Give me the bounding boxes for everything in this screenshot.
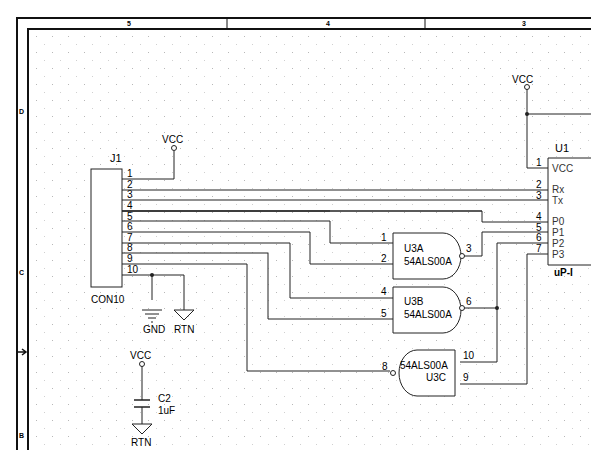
svg-text:uP-I: uP-I	[554, 267, 573, 278]
svg-text:8: 8	[382, 361, 388, 372]
zone-marker-arrow-icon	[18, 349, 26, 355]
svg-text:54ALS00A: 54ALS00A	[400, 360, 448, 371]
connector-body[interactable]	[91, 169, 122, 287]
svg-text:1uF: 1uF	[158, 405, 175, 416]
svg-text:4: 4	[536, 211, 542, 222]
svg-text:P3: P3	[552, 249, 565, 260]
svg-text:VCC: VCC	[552, 163, 573, 174]
zone-row-b: B	[19, 432, 24, 439]
zone-col-5: 5	[127, 20, 131, 27]
svg-text:5: 5	[381, 308, 387, 319]
zone-col-3: 3	[522, 20, 526, 27]
svg-text:RTN: RTN	[174, 324, 194, 335]
zone-row-c: C	[19, 269, 24, 276]
j1-pin-4: 4	[127, 200, 133, 211]
svg-text:C2: C2	[158, 393, 171, 404]
j1-pin-9: 9	[127, 253, 133, 264]
svg-text:RTN: RTN	[131, 437, 151, 448]
connector-part: CON10	[91, 294, 125, 305]
schematic-canvas[interactable]: 5 4 3 D C B J1 CON10 1 2 3 4 5 6 7 8 9 1…	[0, 0, 591, 465]
svg-text:U3C: U3C	[426, 372, 446, 383]
j1-pin-8: 8	[127, 242, 133, 253]
svg-text:Tx: Tx	[552, 195, 563, 206]
svg-text:P0: P0	[552, 216, 565, 227]
svg-text:2: 2	[536, 179, 542, 190]
j1-pin-6: 6	[127, 221, 133, 232]
svg-text:4: 4	[381, 286, 387, 297]
j1-pin-3: 3	[127, 189, 133, 200]
svg-text:P2: P2	[552, 238, 565, 249]
svg-text:U1: U1	[555, 142, 569, 154]
zone-row-d: D	[19, 108, 24, 115]
svg-text:Rx: Rx	[552, 184, 564, 195]
svg-text:7: 7	[536, 243, 542, 254]
svg-text:3: 3	[466, 243, 472, 254]
zone-col-4: 4	[326, 20, 330, 27]
svg-text:U3B: U3B	[404, 296, 424, 307]
svg-text:VCC: VCC	[162, 134, 183, 145]
svg-text:10: 10	[463, 350, 475, 361]
svg-text:54ALS00A: 54ALS00A	[404, 256, 452, 267]
svg-text:2: 2	[381, 253, 387, 264]
svg-text:VCC: VCC	[512, 74, 533, 85]
svg-text:GND: GND	[143, 324, 165, 335]
connector-ref: J1	[110, 152, 122, 164]
svg-text:3: 3	[536, 190, 542, 201]
svg-text:54ALS00A: 54ALS00A	[404, 309, 452, 320]
svg-text:U3A: U3A	[404, 243, 424, 254]
svg-text:6: 6	[466, 296, 472, 307]
j1-pin-10: 10	[127, 264, 139, 275]
svg-text:1: 1	[381, 232, 387, 243]
j1-pin-1: 1	[127, 168, 133, 179]
svg-text:9: 9	[463, 372, 469, 383]
svg-text:1: 1	[536, 157, 542, 168]
svg-text:6: 6	[536, 232, 542, 243]
svg-text:P1: P1	[552, 227, 565, 238]
svg-text:VCC: VCC	[130, 350, 151, 361]
